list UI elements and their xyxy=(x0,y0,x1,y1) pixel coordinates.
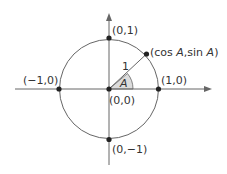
point-top xyxy=(106,35,111,40)
point-left xyxy=(56,86,61,91)
x-axis-arrow-icon xyxy=(204,86,212,92)
point-cos-sin xyxy=(144,51,149,56)
label-radius: 1 xyxy=(122,60,129,73)
label-cos-sin-point: (cos A,sin A) xyxy=(150,46,218,59)
label-bottom: (0,−1) xyxy=(112,143,147,156)
label-angle: A xyxy=(119,77,128,90)
label-left: (−1,0) xyxy=(23,74,58,87)
y-axis-arrow-icon xyxy=(106,13,112,21)
point-origin xyxy=(106,86,111,91)
unit-circle-diagram: (0,1) (0,−1) (−1,0) (1,0) (0,0) 1 A (cos… xyxy=(0,0,227,174)
label-top: (0,1) xyxy=(112,24,138,37)
label-right: (1,0) xyxy=(161,74,187,87)
point-bottom xyxy=(106,137,111,142)
label-origin: (0,0) xyxy=(109,94,135,107)
point-right xyxy=(156,86,161,91)
